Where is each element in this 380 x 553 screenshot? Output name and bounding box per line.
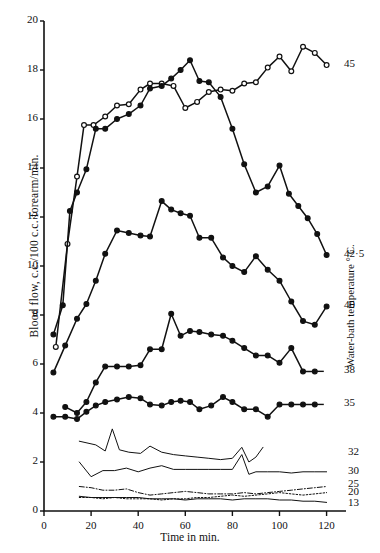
data-point-marker [138, 233, 143, 238]
data-point-marker [138, 87, 143, 92]
y-tick-label: 14 [8, 160, 38, 172]
data-point-marker [68, 209, 73, 214]
data-point-marker [324, 253, 329, 258]
data-point-marker [75, 174, 80, 179]
data-point-marker [254, 254, 259, 259]
data-point-marker [277, 402, 282, 407]
series-label-38: 38 [344, 363, 355, 375]
data-point-marker [148, 234, 153, 239]
data-point-marker [209, 403, 214, 408]
data-point-marker [51, 332, 56, 337]
data-point-marker [82, 123, 87, 128]
data-point-marker [242, 270, 247, 275]
data-point-marker [301, 369, 306, 374]
data-point-marker [169, 76, 174, 81]
y-tick-label: 4 [8, 405, 38, 417]
data-point-marker [126, 395, 131, 400]
data-point-marker [197, 407, 202, 412]
y-axis-label: Blood flow, c.c./100 c.c. forearm/min. [28, 116, 40, 376]
data-point-marker [230, 88, 235, 93]
series-line-32 [79, 429, 263, 462]
data-point-marker [301, 44, 306, 49]
y-tick-label: 12 [8, 209, 38, 221]
data-point-marker [103, 251, 108, 256]
data-point-marker [305, 216, 310, 221]
data-point-marker [289, 299, 294, 304]
data-point-marker [148, 347, 153, 352]
series-line-35 [53, 397, 314, 419]
data-point-marker [159, 403, 164, 408]
data-point-marker [115, 228, 120, 233]
data-point-marker [115, 117, 120, 122]
series-label-40: 40 [344, 298, 355, 310]
data-point-marker [289, 69, 294, 74]
data-point-marker [84, 302, 89, 307]
data-point-marker [103, 400, 108, 405]
y-tick-label: 20 [8, 13, 38, 25]
data-point-marker [178, 68, 183, 73]
data-point-marker [209, 332, 214, 337]
data-point-marker [265, 353, 270, 358]
data-point-marker [51, 370, 56, 375]
data-point-marker [169, 311, 174, 316]
data-point-marker [277, 54, 282, 59]
data-point-marker [159, 199, 164, 204]
figure-container: Blood flow, c.c./100 c.c. forearm/min. W… [0, 0, 380, 553]
data-point-marker [197, 330, 202, 335]
data-point-marker [75, 190, 80, 195]
data-point-marker [178, 398, 183, 403]
data-point-marker [188, 213, 193, 218]
data-point-marker [197, 235, 202, 240]
data-point-marker [289, 402, 294, 407]
x-tick-label: 0 [28, 519, 60, 531]
data-point-marker [169, 207, 174, 212]
data-point-marker [221, 255, 226, 260]
data-point-marker [169, 400, 174, 405]
data-point-marker [254, 190, 259, 195]
data-point-marker [159, 84, 164, 89]
data-point-marker [178, 333, 183, 338]
data-point-marker [221, 395, 226, 400]
data-point-marker [265, 414, 270, 419]
data-point-marker [115, 364, 120, 369]
y-tick-label: 6 [8, 356, 38, 368]
data-point-marker [242, 162, 247, 167]
data-point-marker [206, 90, 211, 95]
data-point-marker [265, 267, 270, 272]
data-point-marker [84, 409, 89, 414]
series-label-35: 35 [344, 396, 355, 408]
data-point-marker [277, 278, 282, 283]
data-point-marker [197, 79, 202, 84]
data-point-marker [93, 380, 98, 385]
data-point-marker [277, 163, 282, 168]
x-tick-label: 20 [75, 519, 107, 531]
series-line-42-5 [53, 60, 326, 334]
y-tick-label: 2 [8, 454, 38, 466]
axes-lines [44, 21, 346, 511]
data-point-marker [148, 81, 153, 86]
data-point-marker [103, 126, 108, 131]
series-label-42-5: 42·5 [344, 247, 364, 259]
data-point-marker [84, 400, 89, 405]
data-point-marker [115, 103, 120, 108]
x-tick-label: 120 [311, 519, 343, 531]
data-point-marker [209, 235, 214, 240]
data-series-group [51, 44, 329, 502]
data-point-marker [242, 346, 247, 351]
data-point-marker [75, 316, 80, 321]
y-tick-label: 16 [8, 111, 38, 123]
data-point-marker [138, 396, 143, 401]
series-line-40 [53, 201, 326, 373]
data-point-marker [265, 65, 270, 70]
data-point-marker [93, 403, 98, 408]
data-point-marker [178, 211, 183, 216]
data-point-marker [277, 360, 282, 365]
data-point-marker [188, 58, 193, 63]
data-point-marker [287, 191, 292, 196]
data-point-marker [254, 353, 259, 358]
data-point-marker [265, 184, 270, 189]
x-axis-label: Time in min. [0, 531, 380, 543]
x-tick-label: 80 [216, 519, 248, 531]
y-tick-label: 18 [8, 62, 38, 74]
series-label-30: 30 [348, 464, 359, 476]
